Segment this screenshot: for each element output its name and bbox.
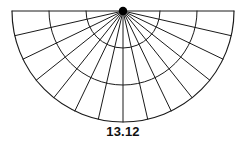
figure-caption: 13.12 bbox=[0, 124, 246, 140]
radial-ray bbox=[123, 11, 223, 59]
radial-ray bbox=[75, 11, 123, 111]
figure-container: 13.12 bbox=[0, 0, 246, 146]
apex-origin-dot bbox=[119, 7, 127, 15]
radial-ray bbox=[23, 11, 123, 59]
radial-rays-group bbox=[12, 11, 234, 122]
radial-ray bbox=[123, 11, 171, 111]
